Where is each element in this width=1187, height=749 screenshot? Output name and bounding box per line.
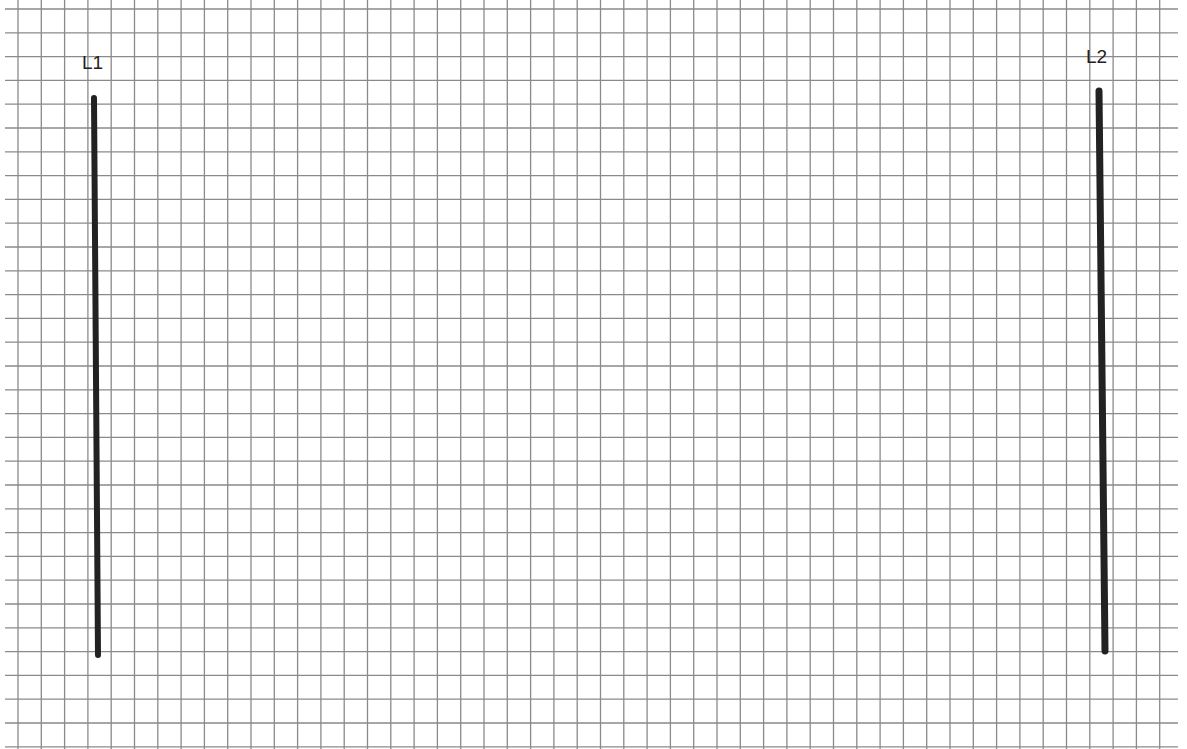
grid-paper	[0, 0, 1187, 749]
line-l1-label: L1	[82, 53, 103, 72]
line-l1	[94, 98, 98, 655]
line-l2-label: L2	[1086, 47, 1107, 66]
grid-lines	[5, 0, 1178, 749]
